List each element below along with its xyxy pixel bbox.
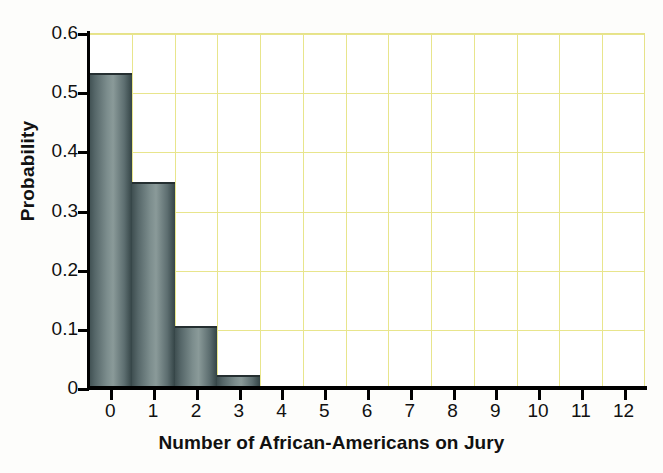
x-axis-tick-label: 5 <box>302 400 346 422</box>
x-axis-tick-label: 12 <box>602 400 646 422</box>
plot-area <box>89 33 645 388</box>
y-axis-tick-label: 0.3 <box>32 200 78 222</box>
x-axis-title: Number of African-Americans on Jury <box>0 432 663 454</box>
gridline-vertical <box>303 34 304 388</box>
bar <box>175 326 218 388</box>
x-axis-tick-mark <box>324 389 327 400</box>
y-axis-tick-mark <box>78 388 89 391</box>
probability-bar-chart: Probability 00.10.20.30.40.50.6 01234567… <box>0 0 663 473</box>
x-axis-tick-label: 2 <box>174 400 218 422</box>
gridline-vertical <box>388 34 389 388</box>
x-axis-tick-mark <box>538 389 541 400</box>
y-axis-tick-label: 0.2 <box>32 259 78 281</box>
bar <box>132 182 175 388</box>
x-axis-tick-mark <box>624 389 627 400</box>
x-axis-tick-label: 3 <box>217 400 261 422</box>
y-axis-tick-mark <box>78 92 89 95</box>
y-axis-tick-labels: 00.10.20.30.40.50.6 <box>32 0 78 473</box>
gridline-vertical <box>346 34 347 388</box>
x-axis-tick-mark <box>110 389 113 400</box>
gridline-horizontal <box>89 93 644 94</box>
x-axis-tick-label: 0 <box>88 400 132 422</box>
y-axis-tick-mark <box>78 270 89 273</box>
x-axis-tick-mark <box>453 389 456 400</box>
x-axis-tick-label: 4 <box>259 400 303 422</box>
gridline-vertical <box>602 34 603 388</box>
y-axis-tick-label: 0.6 <box>32 22 78 44</box>
x-axis-tick-label: 11 <box>559 400 603 422</box>
x-axis-tick-label: 6 <box>345 400 389 422</box>
gridline-vertical <box>431 34 432 388</box>
gridline-vertical <box>559 34 560 388</box>
x-axis-tick-mark <box>196 389 199 400</box>
x-axis-tick-mark <box>239 389 242 400</box>
x-axis-tick-label: 1 <box>131 400 175 422</box>
gridline-vertical <box>474 34 475 388</box>
x-axis-tick-label: 7 <box>388 400 432 422</box>
x-axis-tick-label: 8 <box>431 400 475 422</box>
y-axis-tick-mark <box>78 33 89 36</box>
y-axis-tick-label: 0.5 <box>32 81 78 103</box>
y-axis-tick-label: 0.1 <box>32 318 78 340</box>
gridline-horizontal <box>89 152 644 153</box>
x-axis-tick-mark <box>410 389 413 400</box>
y-axis-tick-mark <box>78 151 89 154</box>
x-axis-tick-mark <box>367 389 370 400</box>
bar <box>89 73 132 388</box>
x-axis-tick-label: 10 <box>516 400 560 422</box>
x-axis-tick-mark <box>153 389 156 400</box>
x-axis-tick-mark <box>495 389 498 400</box>
y-axis-tick-mark <box>78 329 89 332</box>
gridline-vertical <box>217 34 218 388</box>
x-axis-tick-mark <box>281 389 284 400</box>
gridline-vertical <box>260 34 261 388</box>
gridline-vertical <box>517 34 518 388</box>
y-axis-tick-label: 0.4 <box>32 140 78 162</box>
x-axis-tick-mark <box>581 389 584 400</box>
y-axis-tick-label: 0 <box>32 377 78 399</box>
x-axis-tick-label: 9 <box>473 400 517 422</box>
gridline-horizontal <box>89 34 644 35</box>
y-axis-tick-mark <box>78 211 89 214</box>
